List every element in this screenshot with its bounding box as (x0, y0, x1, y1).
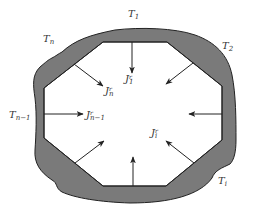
label-Ti: Ti (218, 176, 227, 188)
label-Jn-1r-sub: n−1 (90, 115, 105, 121)
arrow-surface-n (74, 64, 103, 86)
label-Tn-1: Tn−1 (9, 110, 31, 122)
label-T2: T2 (222, 41, 233, 53)
arrow-surface-i (166, 141, 194, 163)
enclosure-wall (34, 28, 236, 203)
label-Jir-sub: i (155, 133, 158, 139)
label-T1-sub: 1 (135, 13, 139, 21)
label-T2-base: T (222, 40, 229, 51)
label-T1-base: T (128, 8, 135, 19)
label-J1r: J r1 (125, 74, 133, 86)
label-J1r-sub: 1 (129, 79, 133, 85)
arrow-surface-2 (166, 63, 193, 84)
label-T2-sub: 2 (229, 45, 233, 53)
label-Tn-base: T (43, 33, 50, 44)
enclosure-diagram (0, 0, 255, 218)
label-Tn-1-sub: n−1 (16, 114, 31, 122)
label-Jnr: J rn (105, 86, 114, 98)
arrow-surface-lower-left (75, 141, 104, 163)
label-T1: T1 (128, 9, 139, 21)
label-Ti-sub: i (225, 180, 227, 188)
label-Jnr-sub: n (109, 91, 114, 97)
label-Tn: Tn (43, 34, 54, 46)
label-Tn-sub: n (50, 38, 55, 46)
label-Ti-base: T (218, 175, 225, 186)
label-Jn-1r: J rn−1 (86, 110, 105, 122)
label-Tn-1-base: T (9, 109, 16, 120)
label-Jir: J ri (151, 128, 158, 140)
